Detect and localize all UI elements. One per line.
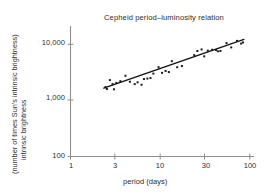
data-point <box>119 80 121 82</box>
data-point <box>149 77 151 79</box>
data-point <box>161 72 163 74</box>
chart-title: Cepheid period–luminosity relation <box>104 13 224 22</box>
data-point <box>113 88 115 90</box>
data-point <box>201 48 203 50</box>
y-axis-title-line-1: intrinsic brightness <box>19 100 28 160</box>
data-point <box>171 60 173 62</box>
data-point <box>124 75 126 77</box>
data-point <box>207 50 209 52</box>
data-point <box>168 71 170 73</box>
data-point <box>230 46 232 48</box>
x-axis-tick-label-3: 3 <box>102 161 128 170</box>
y-axis-title-line-2: (number of times Sun's intrinsic brightn… <box>10 34 19 174</box>
data-point <box>236 40 238 42</box>
data-point <box>137 81 139 83</box>
data-point <box>141 84 143 86</box>
x-axis-tick-label-30: 30 <box>193 161 219 170</box>
data-point <box>217 50 219 52</box>
data-point <box>176 66 178 68</box>
data-point <box>146 78 148 80</box>
data-point <box>165 70 167 72</box>
y-axis-tick-label-1000: 1,000 <box>31 93 65 102</box>
data-point <box>211 49 213 51</box>
data-point <box>193 54 195 56</box>
x-axis-title: period (days) <box>123 177 167 186</box>
data-point <box>104 86 106 88</box>
y-axis-title: intrinsic brightness (number of times Su… <box>0 0 30 175</box>
data-point <box>109 79 111 81</box>
data-point <box>219 50 221 52</box>
chart-figure: Cepheid period–luminosity relation 10,00… <box>0 0 271 195</box>
data-point <box>203 55 205 57</box>
data-point <box>152 73 154 75</box>
data-point <box>240 43 242 45</box>
data-point <box>158 66 160 68</box>
data-point <box>129 81 131 83</box>
data-point <box>196 50 198 52</box>
trend-line <box>104 39 244 88</box>
data-point <box>112 83 114 85</box>
data-point <box>215 49 217 51</box>
data-point <box>226 42 228 44</box>
data-point <box>106 88 108 90</box>
data-point <box>115 82 117 84</box>
data-point <box>143 78 145 80</box>
data-point <box>134 83 136 85</box>
y-axis-tick-label-100: 100 <box>31 151 65 160</box>
x-axis-tick-label-100: 100 <box>237 161 263 170</box>
data-point <box>181 65 183 67</box>
scatter-points <box>104 40 244 90</box>
x-axis-tick-label-10: 10 <box>147 161 173 170</box>
y-axis-tick-label-10000: 10,000 <box>31 38 65 47</box>
x-axis-tick-label-1: 1 <box>58 161 84 170</box>
data-point <box>242 41 244 43</box>
